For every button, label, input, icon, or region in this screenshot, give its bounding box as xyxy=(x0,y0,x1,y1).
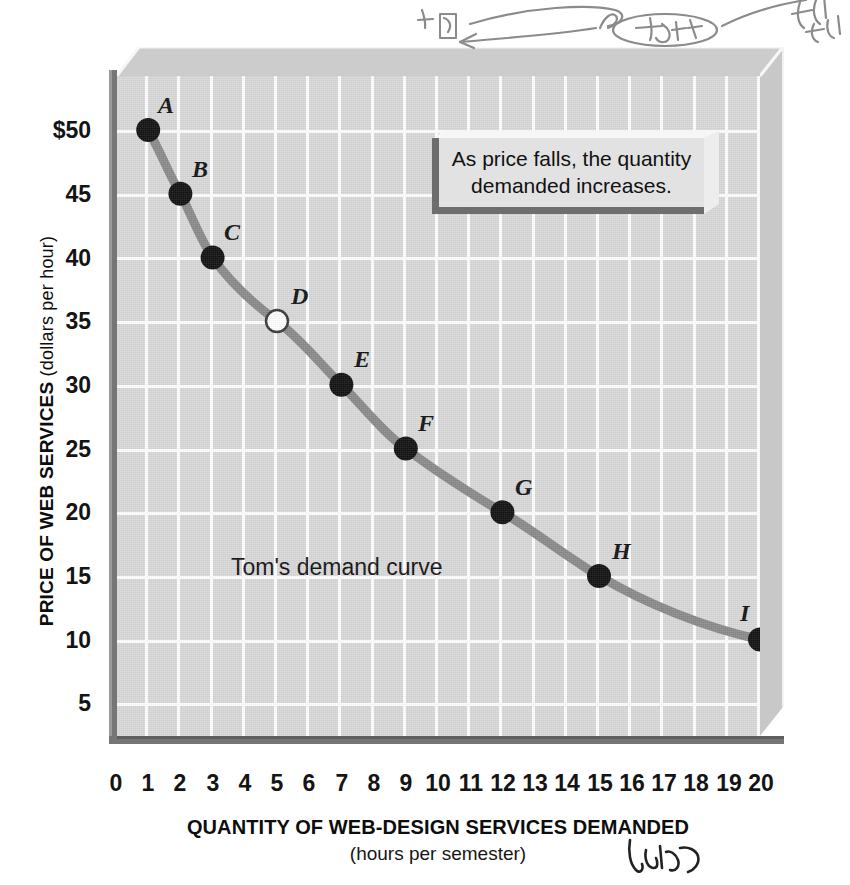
callout-line-2: demanded increases. xyxy=(471,174,672,197)
y-tick-35: 35 xyxy=(65,308,91,335)
y-tick-30: 30 xyxy=(65,372,91,399)
callout-line-1: As price falls, the quantity xyxy=(452,147,691,170)
figure-canvas: A B C D E F G H I Tom's demand curve $50… xyxy=(0,0,850,885)
data-point-I xyxy=(748,628,760,652)
y-axis-title-main: PRICE OF WEB SERVICES xyxy=(36,382,57,627)
y-axis-title: PRICE OF WEB SERVICES (dollars per hour) xyxy=(36,171,58,691)
y-tick-25: 25 xyxy=(65,436,91,463)
y-tick-50: $50 xyxy=(53,117,91,144)
y-axis-highlight xyxy=(109,70,112,744)
x-axis-units: (hours per semester) xyxy=(116,843,760,865)
data-point-E xyxy=(329,373,353,397)
y-tick-20: 20 xyxy=(65,499,91,526)
point-label-A: A xyxy=(158,92,174,119)
handwritten-annotations xyxy=(400,0,850,50)
point-label-E: E xyxy=(354,346,370,373)
data-point-G xyxy=(490,500,514,524)
point-label-F: F xyxy=(418,410,434,437)
data-point-A xyxy=(136,118,160,142)
point-label-G: G xyxy=(515,474,532,501)
y-tick-10: 10 xyxy=(65,627,91,654)
point-label-C: C xyxy=(224,219,240,246)
data-point-B xyxy=(168,182,192,206)
y-axis-title-units: (dollars per hour) xyxy=(37,236,57,382)
chart-box-right-face xyxy=(760,47,786,741)
data-point-F xyxy=(394,437,418,461)
point-label-H: H xyxy=(612,538,631,565)
x-axis-title: QUANTITY OF WEB-DESIGN SERVICES DEMANDED xyxy=(116,816,760,839)
y-tick-45: 45 xyxy=(65,181,91,208)
point-label-B: B xyxy=(192,156,208,183)
curve-name-annotation: Tom's demand curve xyxy=(231,554,442,581)
y-tick-40: 40 xyxy=(65,245,91,272)
x-axis-shadow xyxy=(117,736,784,739)
point-label-D: D xyxy=(291,283,308,310)
callout-box: As price falls, the quantity demanded in… xyxy=(432,138,704,214)
y-tick-15: 15 xyxy=(65,563,91,590)
callout-right-bevel xyxy=(704,131,719,214)
data-point-C xyxy=(201,245,225,269)
x-tick-20: 20 xyxy=(741,770,781,797)
data-point-D xyxy=(266,310,288,332)
point-label-I: I xyxy=(740,600,749,627)
chart-box-top-face xyxy=(116,47,783,77)
y-tick-5: 5 xyxy=(78,690,91,717)
data-point-H xyxy=(587,564,611,588)
